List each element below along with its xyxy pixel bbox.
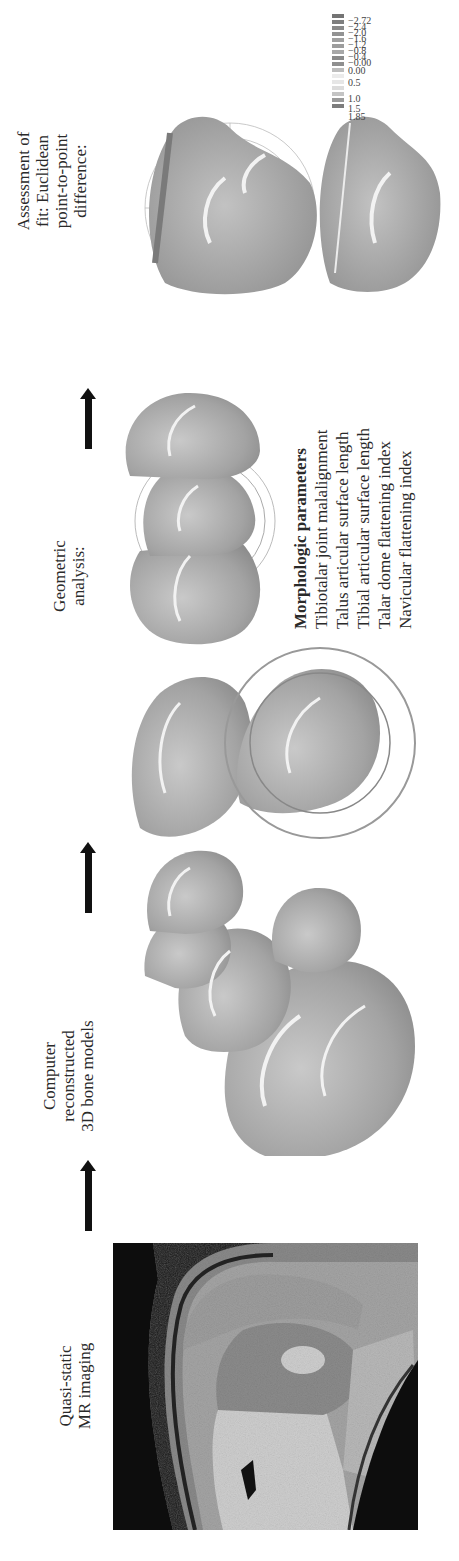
label-line: Quasi-static xyxy=(56,1321,75,1451)
label-line: analysis: xyxy=(69,521,88,631)
label-line: MR imaging xyxy=(75,1321,94,1451)
morphologic-item: Navicular flattening index xyxy=(395,428,416,629)
morphologic-item: Talar dome flattening index xyxy=(374,428,395,629)
morphologic-item: Tibial articular surface length xyxy=(353,428,374,629)
arrow-icon xyxy=(85,851,92,913)
label-line: Assessment of xyxy=(14,106,33,256)
label-line: fit: Euclidean xyxy=(33,106,52,256)
legend-value: 1.5 xyxy=(348,104,361,114)
geometric-analysis-talus xyxy=(120,633,430,843)
color-scale-legend: 1.85 1.5 1.0 0.5 0.00 −0.00 −0.4 −0.8 −1… xyxy=(332,0,402,108)
mri-image xyxy=(113,1243,418,1530)
label-assessment-of-fit: Assessment of fit: Euclidean point-to-po… xyxy=(14,106,90,256)
morphologic-item: Tibiotalar joint malalignment xyxy=(311,428,332,629)
morphologic-item: Talus articular surface length xyxy=(332,428,353,629)
geometric-analysis-hindfoot xyxy=(110,386,290,651)
legend-value: 1.0 xyxy=(348,94,361,104)
arrow-icon xyxy=(85,1169,92,1231)
label-3d-reconstruction: Computer reconstructed 3D bone models xyxy=(40,1011,97,1141)
bone-model-3d xyxy=(125,846,425,1166)
legend-value: 0.5 xyxy=(348,78,361,88)
arrow-icon xyxy=(85,397,92,449)
figure-canvas: Quasi-static MR imaging xyxy=(0,0,459,1561)
label-line: Geometric xyxy=(50,521,69,631)
morphologic-title: Morphologic parameters xyxy=(290,428,311,629)
label-line: reconstructed xyxy=(59,1011,78,1141)
label-line: difference: xyxy=(71,106,90,256)
assessment-talus-models xyxy=(135,108,445,303)
label-geometric-analysis: Geometric analysis: xyxy=(50,521,88,631)
label-mr-imaging: Quasi-static MR imaging xyxy=(56,1321,94,1451)
mri-scan-graphic xyxy=(113,1243,418,1530)
label-line: point-to-point xyxy=(52,106,71,256)
label-line: Computer xyxy=(40,1011,59,1141)
legend-labels: 1.85 1.5 1.0 0.5 0.00 −0.00 −0.4 −0.8 −1… xyxy=(348,7,388,112)
legend-value: −2.72 xyxy=(348,16,371,26)
label-line: 3D bone models xyxy=(78,1011,97,1141)
morphologic-parameters-list: Morphologic parameters Tibiotalar joint … xyxy=(290,428,416,629)
